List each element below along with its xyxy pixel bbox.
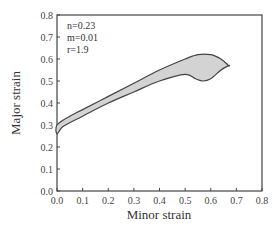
annotation-r: r=1.9 — [67, 44, 88, 55]
y-tick-label: 0.7 — [41, 32, 54, 43]
y-tick-label: 0.8 — [41, 10, 54, 21]
x-tick-label: 0.8 — [256, 195, 269, 206]
annotation-n: n=0.23 — [67, 20, 95, 31]
y-tick-label: 0.5 — [41, 76, 54, 87]
x-tick-label: 0.6 — [205, 195, 218, 206]
y-tick-label: 0.3 — [41, 120, 54, 131]
x-tick-label: 0.7 — [230, 195, 243, 206]
x-tick-label: 0.4 — [153, 195, 166, 206]
annotation-m: m=0.01 — [67, 32, 98, 43]
y-tick-label: 0.1 — [41, 164, 54, 175]
forming-limit-chart: 0.00.10.20.30.40.50.60.70.80.00.10.20.30… — [0, 0, 277, 230]
x-axis-label: Minor strain — [127, 207, 192, 222]
y-axis-label: Major strain — [8, 71, 23, 135]
y-tick-label: 0.6 — [41, 54, 54, 65]
y-tick-label: 0.4 — [41, 98, 54, 109]
x-tick-label: 0.0 — [51, 195, 64, 206]
x-tick-label: 0.5 — [179, 195, 192, 206]
x-tick-label: 0.3 — [128, 195, 141, 206]
x-tick-label: 0.2 — [102, 195, 115, 206]
y-tick-label: 0.0 — [41, 186, 54, 197]
x-tick-label: 0.1 — [76, 195, 89, 206]
strain-region-band — [56, 54, 230, 134]
y-tick-label: 0.2 — [41, 142, 54, 153]
